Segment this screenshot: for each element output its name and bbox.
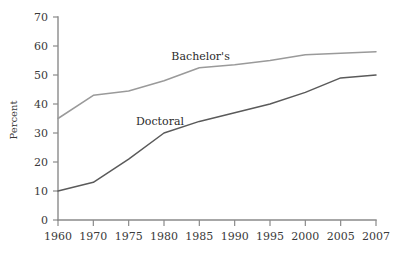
y-tick-label: 20 [34, 156, 48, 169]
y-tick-label: 30 [34, 127, 48, 140]
series-line-doctoral [58, 75, 376, 191]
series-label-bachelor-s: Bachelor's [171, 50, 230, 63]
x-tick-group: 1960197019751980198519901995200020052007 [44, 220, 390, 243]
x-tick-label: 1990 [221, 230, 249, 243]
x-tick-label: 1985 [185, 230, 213, 243]
series-label-doctoral: Doctoral [136, 115, 184, 128]
x-tick-label: 2000 [291, 230, 319, 243]
series-label-group: Bachelor'sDoctoral [136, 50, 230, 128]
x-tick-label: 2005 [327, 230, 355, 243]
x-tick-label: 1975 [115, 230, 143, 243]
x-tick-label: 1980 [150, 230, 178, 243]
x-tick-label: 1970 [79, 230, 107, 243]
y-tick-label: 40 [34, 98, 48, 111]
y-tick-label: 0 [41, 214, 48, 227]
x-tick-label: 2007 [362, 230, 390, 243]
chart-container: 010203040506070 Percent 1960197019751980… [0, 0, 396, 254]
y-axis-title: Percent [8, 101, 19, 140]
x-tick-label: 1960 [44, 230, 72, 243]
line-chart: 010203040506070 Percent 1960197019751980… [0, 0, 396, 254]
x-axis-group: 1960197019751980198519901995200020052007 [44, 220, 390, 243]
y-tick-label: 60 [34, 40, 48, 53]
y-axis-group: 010203040506070 Percent [8, 11, 58, 227]
x-tick-label: 1995 [256, 230, 284, 243]
y-tick-label: 10 [34, 185, 48, 198]
y-tick-group: 010203040506070 [34, 11, 58, 227]
y-tick-label: 70 [34, 11, 48, 24]
series-group [58, 52, 376, 191]
y-tick-label: 50 [34, 69, 48, 82]
